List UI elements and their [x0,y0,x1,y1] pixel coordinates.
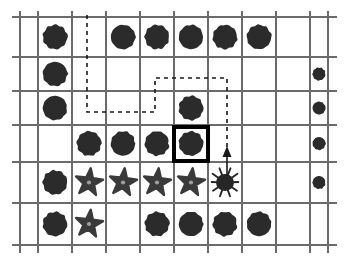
obstacle-blob-icon [179,25,203,50]
star-center-dot [189,180,193,184]
obstacle-blob-icon [212,212,237,237]
obstacle-blob-icon [312,176,325,189]
obstacle-blob-icon [179,95,204,120]
obstacle-blob-icon [247,211,271,236]
obstacle-blob-shape [312,68,325,81]
obstacle-blob-shape [212,212,237,237]
star-token-icon [76,210,103,237]
obstacle-blob-shape [43,211,68,236]
star-center-dot [121,180,125,184]
obstacle-blob-icon [313,101,326,114]
obstacle-blob-icon [145,132,170,157]
bug-body [216,174,234,191]
obstacle-blob-shape [179,25,203,50]
obstacle-blob-icon [313,137,326,150]
agent-bug-icon [212,168,239,196]
obstacle-blob-icon [312,68,325,81]
bug-leg [232,174,238,178]
obstacle-blob-shape [111,131,136,155]
obstacle-blob-icon [111,131,136,155]
obstacle-blob-shape [247,211,271,236]
star-center-dot [87,180,91,184]
obstacle-blob-icon [76,131,101,156]
obstacle-blob-shape [179,212,204,236]
star-token-icon [110,168,137,195]
obstacle-blob-icon [144,24,169,49]
obstacle-blob-shape [145,132,170,157]
star-token-icon [76,168,103,195]
bug-leg [213,187,218,191]
obstacle-blob-icon [247,24,272,49]
obstacle-blob-icon [42,170,67,195]
bug-leg [220,190,222,196]
star-token-icon [178,168,205,195]
obstacle-blob-icon [111,25,136,50]
grid-scene [0,0,345,261]
grid-board [0,0,345,261]
bug-leg [213,174,219,178]
bug-leg [228,190,230,196]
obstacle-blob-shape [144,24,169,49]
obstacle-blob-shape [212,25,237,50]
star-token-icon [144,168,171,195]
obstacle-blob-shape [43,96,67,121]
bug-leg [219,168,221,174]
obstacle-blob-icon [43,96,67,121]
goal-blob-shape [179,131,204,156]
obstacle-blob-shape [313,137,326,150]
obstacle-blob-shape [144,211,169,236]
obstacle-blob-icon [43,211,68,236]
bug-leg [228,168,230,174]
obstacle-blob-icon [144,211,169,236]
obstacle-blob-shape [312,176,325,189]
obstacle-blob-icon [179,212,204,236]
obstacle-blob-icon [212,25,237,50]
obstacle-blob-shape [43,62,69,87]
obstacle-blob-shape [179,95,204,120]
obstacle-blob-shape [313,101,326,114]
obstacle-blob-shape [42,170,67,195]
obstacle-blob-shape [111,25,136,50]
goal-blob-icon [179,131,204,156]
obstacle-blob-shape [247,24,272,49]
obstacle-blob-shape [42,24,67,49]
obstacle-blob-icon [42,24,67,49]
obstacle-blob-shape [76,131,101,156]
bug-leg [232,187,237,191]
obstacle-blob-icon [43,62,69,87]
star-center-dot [155,180,159,184]
star-center-dot [87,222,91,226]
